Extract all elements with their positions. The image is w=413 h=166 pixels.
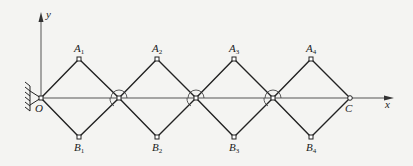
pin-C [348,96,353,101]
x-axis-label: x [384,98,390,110]
label-A1: A1 [73,42,85,56]
label-B2: B2 [152,141,163,155]
pin-joint-1 [117,96,121,100]
label-A4: A4 [305,42,317,56]
origin-label: O [35,102,43,114]
label-B4: B4 [306,141,317,155]
pin-O [39,96,43,100]
pin-A4 [309,57,313,61]
y-axis-arrow-icon [39,12,44,22]
pin-A2 [155,57,159,61]
y-axis-label: y [45,8,51,20]
pin-A1 [77,57,81,61]
pin-B4 [309,135,313,139]
pin-B1 [77,135,81,139]
pin-A3 [232,57,236,61]
pin-joint-3 [271,96,275,100]
linkage-diagram: y x O C A1 A2 A3 A4 B1 B2 B3 B4 [0,0,413,166]
label-A2: A2 [151,42,163,56]
label-B3: B3 [229,141,240,155]
label-A3: A3 [228,42,240,56]
pin-joint-2 [194,96,198,100]
label-B1: B1 [74,141,85,155]
coordinate-axes [39,12,395,101]
point-C-label: C [345,102,353,114]
pin-B2 [155,135,159,139]
pin-B3 [232,135,236,139]
